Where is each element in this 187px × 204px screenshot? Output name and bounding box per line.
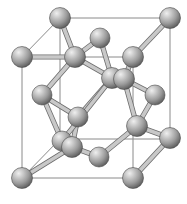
atom-corner-front-top-right xyxy=(123,47,144,68)
atom-corner-front-bottom-right xyxy=(123,168,144,189)
atom-face-center-upper-left xyxy=(65,47,86,68)
atom-corner-front-top-left xyxy=(12,47,33,68)
atom-corner-back-top-right xyxy=(160,8,181,29)
atom-interior-mid-right xyxy=(127,116,148,137)
atom-face-center-right xyxy=(145,85,165,105)
crystal-structure-figure xyxy=(0,0,187,204)
atom-face-center-bottom xyxy=(89,147,109,167)
atom-interior-lower-left-front xyxy=(62,137,83,158)
atom-corner-back-top-left xyxy=(50,8,71,29)
atom-face-center-top xyxy=(90,28,110,48)
atom-face-center-left xyxy=(32,85,52,105)
atom-corner-front-bottom-left xyxy=(12,168,33,189)
atom-corner-back-bottom-right xyxy=(160,128,181,149)
atom-interior-mid-left xyxy=(68,107,88,127)
atom-interior-center-right xyxy=(114,69,135,90)
crystal-lattice-svg xyxy=(0,0,187,204)
